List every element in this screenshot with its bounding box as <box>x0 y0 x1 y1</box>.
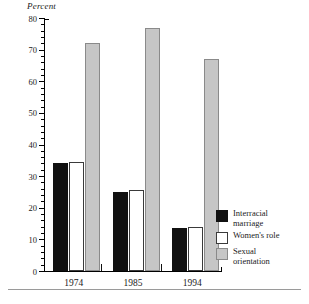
y-tick-minor <box>41 233 45 234</box>
y-tick-label: 60 <box>15 78 37 87</box>
bar <box>113 192 128 271</box>
y-tick-minor <box>41 163 45 164</box>
y-tick-minor <box>41 195 45 196</box>
y-tick-major <box>39 81 45 82</box>
y-tick-label: 10 <box>15 236 37 245</box>
y-tick-minor <box>41 252 45 253</box>
y-tick-minor <box>41 107 45 108</box>
bar <box>129 190 144 271</box>
bar <box>85 43 100 271</box>
y-tick-label: 40 <box>15 141 37 150</box>
y-tick-minor <box>41 182 45 183</box>
legend-item: Women's role <box>216 231 308 244</box>
x-axis-line <box>44 271 222 272</box>
y-tick-minor <box>41 94 45 95</box>
y-tick-major <box>39 50 45 51</box>
y-tick-label: 20 <box>15 204 37 213</box>
y-tick-minor <box>41 220 45 221</box>
y-tick-minor <box>41 246 45 247</box>
y-tick-label: 80 <box>15 15 37 24</box>
y-tick-label: 50 <box>15 109 37 118</box>
y-tick-minor <box>41 43 45 44</box>
y-tick-major <box>39 239 45 240</box>
legend-swatch-white <box>216 232 228 244</box>
y-tick-minor <box>41 31 45 32</box>
bar <box>172 228 187 271</box>
y-tick-minor <box>41 100 45 101</box>
y-tick-minor <box>41 227 45 228</box>
bar <box>53 163 68 271</box>
y-tick-minor <box>41 56 45 57</box>
y-tick-minor <box>41 214 45 215</box>
y-tick-label: 70 <box>15 46 37 55</box>
y-tick-major <box>39 208 45 209</box>
y-tick-minor <box>41 62 45 63</box>
legend-swatch-black <box>216 210 228 222</box>
y-tick-minor <box>41 24 45 25</box>
y-tick-minor <box>41 258 45 259</box>
legend-item: Interracialmarriage <box>216 209 308 228</box>
bar <box>145 28 160 272</box>
x-group-separator-tick <box>101 264 102 271</box>
y-tick-minor <box>41 126 45 127</box>
y-tick-major <box>39 18 45 19</box>
x-category-label: 1985 <box>103 278 162 288</box>
bar <box>188 227 203 271</box>
y-tick-minor <box>41 132 45 133</box>
y-tick-minor <box>41 157 45 158</box>
plot-area <box>44 19 222 272</box>
y-tick-minor <box>41 265 45 266</box>
y-tick-label: 0 <box>15 268 37 277</box>
x-group-separator-tick <box>161 264 162 271</box>
y-tick-minor <box>41 37 45 38</box>
y-tick-minor <box>41 189 45 190</box>
y-axis-top-cap <box>44 19 49 20</box>
y-tick-minor <box>41 201 45 202</box>
y-tick-minor <box>41 75 45 76</box>
y-tick-major <box>39 271 45 272</box>
y-tick-major <box>39 176 45 177</box>
bottom-divider <box>8 289 301 290</box>
y-axis-title: Percent <box>27 1 56 11</box>
x-category-label: 1974 <box>44 278 103 288</box>
y-tick-minor <box>41 138 45 139</box>
y-tick-minor <box>41 88 45 89</box>
legend-swatch-gray <box>216 248 228 260</box>
legend-item: Sexualorientation <box>216 247 308 266</box>
y-tick-label: 30 <box>15 173 37 182</box>
x-category-label: 1994 <box>163 278 222 288</box>
y-tick-minor <box>41 119 45 120</box>
legend-label: Women's role <box>233 231 279 241</box>
bar-chart: Percent 01020304050607080 197419851994 I… <box>0 0 309 304</box>
y-tick-minor <box>41 69 45 70</box>
bar <box>69 162 84 271</box>
legend-label: Interracialmarriage <box>233 209 268 228</box>
y-tick-minor <box>41 151 45 152</box>
y-tick-major <box>39 145 45 146</box>
legend-label: Sexualorientation <box>233 247 270 266</box>
y-tick-minor <box>41 170 45 171</box>
y-tick-major <box>39 113 45 114</box>
chart-legend: InterracialmarriageWomen's roleSexualori… <box>216 209 308 269</box>
